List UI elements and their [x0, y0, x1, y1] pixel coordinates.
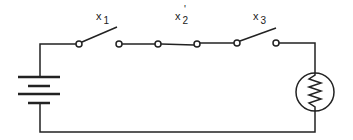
battery [18, 77, 60, 103]
switch-x2-terminal-right [194, 41, 200, 47]
lamp-bulb [296, 73, 334, 111]
wire-right [279, 43, 315, 73]
switch-x3-terminal-right [273, 40, 279, 46]
switch-x3-label: x3 [253, 10, 267, 26]
wire-bottom [40, 104, 315, 132]
switch-x1-terminal-left [76, 41, 82, 47]
switch-x1-blade [82, 27, 117, 42]
circuit-diagram: x1 x2' x3 [0, 0, 353, 140]
lamp-filament [309, 73, 321, 111]
wire-left-top [40, 44, 76, 77]
switch-x2-terminal-left [155, 41, 161, 47]
switch-x1-terminal-right [116, 41, 122, 47]
switch-x3-blade [240, 28, 276, 41]
switch-x2-blade [161, 44, 194, 45]
switch-x2-label: x2' [175, 4, 189, 26]
switch-x3-terminal-left [234, 40, 240, 46]
switch-x1-label: x1 [96, 10, 110, 26]
